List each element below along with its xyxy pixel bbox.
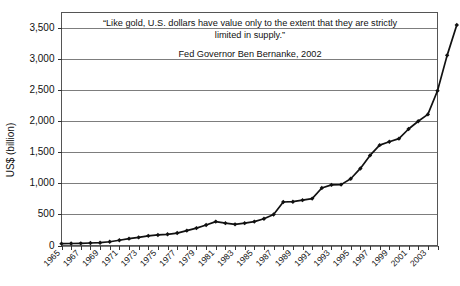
y-axis-title: US$ (billion) xyxy=(5,123,16,177)
quote-attribution: Fed Governor Ben Bernanke, 2002 xyxy=(178,49,321,59)
y-tick-label-500: 500 xyxy=(38,208,55,219)
y-tick-label-3,000: 3,000 xyxy=(29,53,54,64)
y-tick-label-1,500: 1,500 xyxy=(29,146,54,157)
money-supply-line-chart: 05001,0001,5002,0002,5003,0003,500 19651… xyxy=(0,0,460,286)
y-tick-label-3,500: 3,500 xyxy=(29,22,54,33)
quote-line-2: limited in supply.” xyxy=(215,30,285,40)
y-tick-label-2,500: 2,500 xyxy=(29,84,54,95)
y-tick-label-2,000: 2,000 xyxy=(29,115,54,126)
chart-container: 05001,0001,5002,0002,5003,0003,500 19651… xyxy=(0,0,460,286)
quote-line-1: “Like gold, U.S. dollars have value only… xyxy=(103,18,398,28)
y-tick-label-1,000: 1,000 xyxy=(29,177,54,188)
